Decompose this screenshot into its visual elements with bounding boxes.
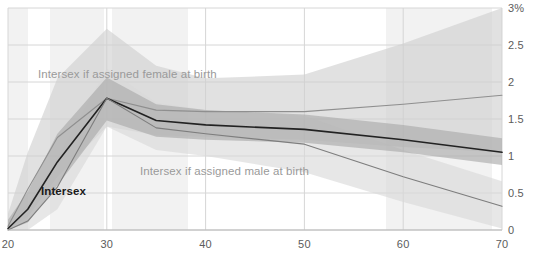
x-tick-label-20: 20 bbox=[2, 238, 15, 250]
intersex-prevalence-by-age-chart: 203040506070 00.511.522.53% Intersex if … bbox=[0, 0, 538, 259]
series-annotation-1: Intersex if assigned male at birth bbox=[140, 165, 309, 177]
x-tick-label-30: 30 bbox=[100, 238, 113, 250]
y-tick-label-0.5: 0.5 bbox=[508, 187, 524, 199]
y-tick-label-0: 0 bbox=[508, 224, 514, 236]
series-annotation-2: Intersex bbox=[41, 185, 86, 197]
y-tick-label-1.5: 1.5 bbox=[508, 113, 524, 125]
y-tick-label-2: 2 bbox=[508, 76, 514, 88]
x-tick-label-70: 70 bbox=[496, 238, 509, 250]
x-tick-label-40: 40 bbox=[199, 238, 212, 250]
y-tick-label-1: 1 bbox=[508, 150, 514, 162]
x-tick-label-50: 50 bbox=[298, 238, 311, 250]
series-annotation-0: Intersex if assigned female at birth bbox=[38, 68, 217, 80]
x-tick-label-60: 60 bbox=[397, 238, 410, 250]
y-tick-label-3pct: 3% bbox=[508, 2, 524, 14]
chart-plot-area bbox=[0, 0, 538, 259]
y-tick-label-2.5: 2.5 bbox=[508, 39, 524, 51]
